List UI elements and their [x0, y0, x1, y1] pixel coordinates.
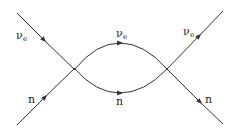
svg-text:e: e [190, 31, 194, 39]
loop-neutron-line [75, 69, 167, 93]
svg-text:e: e [123, 33, 127, 41]
loop-neutrino-line [75, 43, 167, 69]
svg-text:ν: ν [183, 25, 190, 38]
label-loop-neutrino: ν e [116, 27, 127, 41]
outgoing-neutron-line [167, 69, 223, 124]
label-incoming-neutron: n [28, 93, 35, 106]
svg-text:e: e [23, 35, 27, 43]
label-outgoing-neutrino: ν e [183, 25, 194, 39]
label-outgoing-neutron: n [205, 93, 212, 106]
svg-text:ν: ν [16, 29, 23, 42]
incoming-neutron-line [17, 68, 75, 125]
label-loop-neutron: n [116, 95, 123, 108]
label-incoming-neutrino: ν e [16, 29, 27, 43]
feynman-diagram: ν e n ν e n ν e n [0, 0, 237, 135]
svg-text:ν: ν [116, 27, 123, 40]
outgoing-neutrino-line [167, 11, 223, 69]
